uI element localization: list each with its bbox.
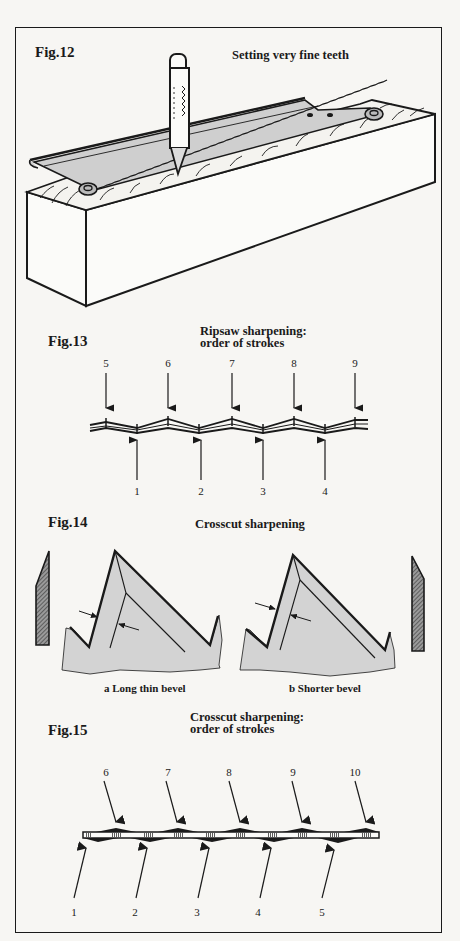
fig15-illustration (0, 0, 460, 941)
